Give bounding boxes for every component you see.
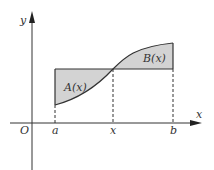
tick-label-a: a bbox=[52, 124, 59, 137]
x-axis-label: x bbox=[196, 108, 203, 121]
diagram-svg: y x O a x b A(x) B(x) bbox=[0, 0, 214, 170]
region-b-label: B(x) bbox=[142, 52, 166, 65]
origin-label: O bbox=[20, 124, 29, 137]
area-diagram: y x O a x b A(x) B(x) bbox=[0, 0, 214, 170]
tick-label-x: x bbox=[110, 124, 117, 137]
region-a-label: A(x) bbox=[63, 81, 87, 94]
y-axis-label: y bbox=[19, 14, 27, 27]
y-axis-arrow-icon bbox=[29, 11, 35, 23]
tick-label-b: b bbox=[170, 124, 177, 137]
